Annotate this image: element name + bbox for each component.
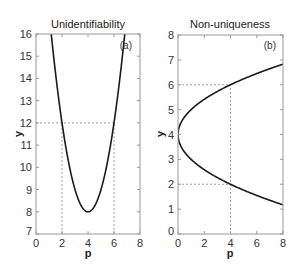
panel-a: Unidentifiability (a) 02468 789101112131… bbox=[12, 0, 143, 259]
panel-a-axes-box bbox=[36, 34, 140, 234]
x-tick-label: 8 bbox=[280, 237, 286, 249]
y-tick-label: 6 bbox=[168, 79, 174, 91]
y-tick-label: 12 bbox=[20, 117, 32, 129]
panel-a-x-ticks: 02468 bbox=[33, 34, 143, 249]
curve-series-0 bbox=[178, 64, 283, 134]
panel-b-title: Non-uniqueness bbox=[190, 18, 271, 30]
panel-b-y-ticks: 012345678 bbox=[168, 29, 283, 237]
y-tick-label: 15 bbox=[20, 50, 32, 62]
y-tick-label: 5 bbox=[168, 104, 174, 116]
panel-a-title: Unidentifiability bbox=[51, 18, 125, 30]
y-tick-label: 10 bbox=[20, 161, 32, 173]
x-tick-label: 6 bbox=[254, 237, 260, 249]
y-tick-label: 7 bbox=[168, 54, 174, 66]
curve-series-0 bbox=[36, 0, 140, 212]
y-tick-label: 13 bbox=[20, 95, 32, 107]
y-tick-label: 11 bbox=[21, 139, 32, 151]
x-tick-label: 6 bbox=[111, 237, 117, 249]
panel-b: Non-uniqueness (b) 02468 012345678 p y bbox=[154, 18, 286, 259]
y-tick-label: 7 bbox=[26, 225, 32, 237]
y-tick-label: 14 bbox=[20, 72, 32, 84]
panel-b-x-label: p bbox=[227, 247, 234, 259]
panel-b-label: (b) bbox=[264, 40, 276, 51]
x-tick-label: 2 bbox=[59, 237, 65, 249]
y-tick-label: 9 bbox=[26, 184, 32, 196]
y-tick-label: 4 bbox=[168, 129, 174, 141]
x-tick-label: 0 bbox=[175, 237, 181, 249]
x-tick-label: 8 bbox=[137, 237, 143, 249]
panel-a-x-label: p bbox=[85, 247, 92, 259]
y-tick-label: 16 bbox=[20, 28, 32, 40]
figure: Unidentifiability (a) 02468 789101112131… bbox=[0, 0, 302, 271]
panel-a-label: (a) bbox=[120, 40, 132, 51]
panel-b-y-label: y bbox=[154, 130, 166, 137]
y-tick-label: 8 bbox=[168, 29, 174, 41]
panel-a-y-label: y bbox=[12, 130, 24, 137]
x-tick-label: 0 bbox=[33, 237, 39, 249]
x-tick-label: 2 bbox=[201, 237, 207, 249]
y-tick-label: 8 bbox=[26, 206, 32, 218]
y-tick-label: 2 bbox=[168, 178, 174, 190]
y-tick-label: 1 bbox=[168, 203, 174, 215]
y-tick-label: 3 bbox=[168, 153, 174, 165]
y-tick-label: 0 bbox=[168, 225, 174, 237]
